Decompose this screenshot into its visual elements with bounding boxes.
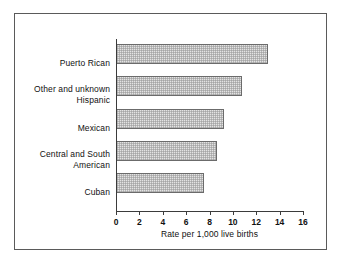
bar-puerto-rican (116, 44, 268, 64)
category-label-line: Puerto Rican (0, 58, 110, 69)
x-axis-tick-label: 2 (126, 217, 152, 227)
x-axis-tick (210, 211, 211, 215)
x-axis-tick (116, 211, 117, 215)
x-axis-tick-label: 8 (197, 217, 223, 227)
x-axis-tick (186, 211, 187, 215)
category-label-other-and-unknown-hispanic: Other and unknown Hispanic (0, 84, 110, 105)
x-axis-tick (303, 211, 304, 215)
x-axis-tick (256, 211, 257, 215)
category-label-puerto-rican: Puerto Rican (0, 58, 110, 69)
category-label-line: Central and South (0, 149, 110, 160)
x-axis-tick-label: 0 (103, 217, 129, 227)
x-axis-title: Rate per 1,000 live births (116, 229, 303, 239)
x-axis-tick-label: 4 (150, 217, 176, 227)
bar-cuban (116, 173, 204, 193)
category-label-line: Hispanic (0, 95, 110, 106)
category-label-line: Mexican (0, 123, 110, 134)
category-label-cuban: Cuban (0, 187, 110, 198)
x-axis-tick (139, 211, 140, 215)
bar-chart-plot: Puerto Rican Other and unknown Hispanic … (15, 14, 328, 251)
category-label-central-and-south-american: Central and South American (0, 149, 110, 170)
category-label-line: American (0, 160, 110, 171)
category-label-mexican: Mexican (0, 123, 110, 134)
y-axis-line (116, 39, 117, 211)
x-axis-tick-label: 12 (243, 217, 269, 227)
x-axis-tick-label: 6 (173, 217, 199, 227)
x-axis-tick-label: 10 (220, 217, 246, 227)
x-axis-tick (280, 211, 281, 215)
bar-mexican (116, 109, 224, 129)
x-axis-tick (233, 211, 234, 215)
bar-central-and-south-american (116, 141, 217, 161)
category-label-line: Cuban (0, 187, 110, 198)
x-axis-tick (163, 211, 164, 215)
category-label-line: Other and unknown (0, 84, 110, 95)
bar-other-and-unknown-hispanic (116, 76, 242, 96)
x-axis-tick-label: 16 (290, 217, 316, 227)
chart-frame: Puerto Rican Other and unknown Hispanic … (14, 13, 327, 250)
x-axis-tick-label: 14 (267, 217, 293, 227)
